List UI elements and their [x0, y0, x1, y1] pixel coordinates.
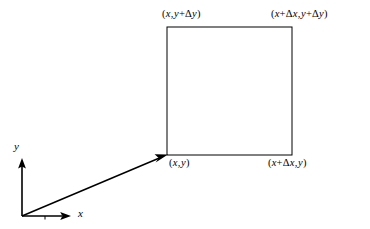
delta-symbol-2: Δ [312, 8, 319, 19]
position-vector-arrowhead-icon [155, 154, 168, 162]
y-axis-label: y [14, 141, 19, 152]
corner-label-top-right: (x+Δx,y+Δy) [271, 9, 328, 20]
paren-close: ) [197, 8, 201, 19]
diagram-vector-layer [0, 0, 370, 229]
term-x: x [173, 157, 178, 168]
corner-label-bottom-right: (x+Δx,y) [268, 158, 307, 169]
paren-close: ) [303, 157, 307, 168]
delta-symbol: Δ [283, 157, 290, 168]
rectangle-element [167, 27, 292, 155]
paren-close: ) [324, 8, 328, 19]
term-dx: x [290, 157, 295, 168]
paren-close: ) [186, 157, 190, 168]
position-vector-line [22, 158, 160, 216]
corner-label-bottom-left: (x,y) [169, 158, 190, 169]
term-x: x [166, 8, 171, 19]
delta-symbol-1: Δ [286, 8, 293, 19]
corner-label-top-left: (x,y+Δy) [162, 9, 201, 20]
delta-symbol: Δ [185, 8, 192, 19]
x-axis-label: x [78, 208, 83, 219]
term-dx: x [293, 8, 298, 19]
diagram-canvas: (x,y+Δy) (x+Δx,y+Δy) (x,y) (x+Δx,y) y x [0, 0, 370, 229]
